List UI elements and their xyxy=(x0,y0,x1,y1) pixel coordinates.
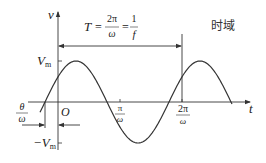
theta-over-omega-label: θ ω xyxy=(16,101,28,124)
svg-text:=: = xyxy=(95,20,102,34)
vm-label: Vm xyxy=(37,53,52,69)
time-domain-label: 时域 xyxy=(211,19,235,33)
svg-text:=: = xyxy=(122,20,129,34)
pi-over-omega-label: π ω xyxy=(115,103,125,124)
neg-vm-label: −Vm xyxy=(33,135,57,151)
svg-text:ω: ω xyxy=(108,28,115,39)
x-axis-label: t xyxy=(249,101,253,116)
sine-wave-diagram: v t O Vm −Vm π ω 2π ω θ ω T = 2π ω = 1 f… xyxy=(0,0,266,163)
y-axis-label: v xyxy=(48,7,54,22)
svg-text:ω: ω xyxy=(117,114,123,124)
svg-text:ω: ω xyxy=(18,113,25,124)
svg-text:2π: 2π xyxy=(107,13,117,24)
origin-label: O xyxy=(61,105,70,119)
svg-text:1: 1 xyxy=(132,13,137,24)
svg-text:π: π xyxy=(118,103,123,113)
svg-text:θ: θ xyxy=(20,101,25,112)
svg-text:f: f xyxy=(132,28,137,40)
period-formula: T = 2π ω = 1 f xyxy=(84,13,138,40)
svg-text:2π: 2π xyxy=(178,103,188,114)
svg-text:ω: ω xyxy=(180,116,186,126)
svg-text:T: T xyxy=(84,19,92,34)
two-pi-over-omega-label: 2π ω xyxy=(176,103,190,126)
